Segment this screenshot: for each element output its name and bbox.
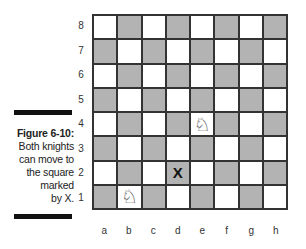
square-f3 [214,136,238,160]
square-g6 [239,64,263,88]
square-f4 [214,112,238,136]
file-label: e [190,225,214,236]
square-b2 [117,161,141,185]
square-d7 [166,39,190,63]
knight-icon: ♘ [194,115,211,134]
square-a2 [93,161,117,185]
square-h5 [263,88,287,112]
square-a8 [93,15,117,39]
rank-label: 2 [76,167,86,178]
square-e1 [190,185,214,209]
square-g7 [239,39,263,63]
square-b6 [117,64,141,88]
square-g1 [239,185,263,209]
file-label: c [141,225,165,236]
rank-label: 3 [76,143,86,154]
caption-line: marked [4,179,74,192]
square-c3 [142,136,166,160]
chessboard: ♘X♘ [92,14,288,210]
square-a3 [93,136,117,160]
figure-caption: Figure 6-10: Both knights can move to th… [4,127,74,205]
square-g3 [239,136,263,160]
rank-label: 7 [76,45,86,56]
square-h8 [263,15,287,39]
square-d5 [166,88,190,112]
square-h2 [263,161,287,185]
square-c5 [142,88,166,112]
square-d6 [166,64,190,88]
square-c1 [142,185,166,209]
square-a4 [93,112,117,136]
file-label: f [215,225,239,236]
square-g8 [239,15,263,39]
square-d1 [166,185,190,209]
square-f8 [214,15,238,39]
square-e2 [190,161,214,185]
square-f2 [214,161,238,185]
square-a7 [93,39,117,63]
square-b8 [117,15,141,39]
square-d3 [166,136,190,160]
square-d2: X [166,161,190,185]
rank-label: 1 [76,192,86,203]
square-c8 [142,15,166,39]
caption-line: Both knights [4,140,74,153]
square-f6 [214,64,238,88]
square-h6 [263,64,287,88]
square-c7 [142,39,166,63]
square-b3 [117,136,141,160]
square-g5 [239,88,263,112]
figure-label: Figure 6-10: [4,127,74,140]
target-marker: X [173,164,183,181]
square-a5 [93,88,117,112]
square-f5 [214,88,238,112]
square-e5 [190,88,214,112]
square-h3 [263,136,287,160]
square-h7 [263,39,287,63]
square-f7 [214,39,238,63]
rank-label: 6 [76,69,86,80]
caption-rule-bottom [14,214,72,219]
rank-label: 8 [76,20,86,31]
square-e3 [190,136,214,160]
file-label: a [92,225,116,236]
square-a1 [93,185,117,209]
rank-label: 4 [76,118,86,129]
square-e8 [190,15,214,39]
square-f1 [214,185,238,209]
square-e4: ♘ [190,112,214,136]
square-g2 [239,161,263,185]
file-label: d [166,225,190,236]
caption-line: the square [4,166,74,179]
caption-line: can move to [4,153,74,166]
square-h4 [263,112,287,136]
rank-label: 5 [76,94,86,105]
file-label: g [239,225,263,236]
square-e7 [190,39,214,63]
file-label: h [264,225,288,236]
caption-rule-top [14,110,72,115]
square-d8 [166,15,190,39]
square-d4 [166,112,190,136]
square-e6 [190,64,214,88]
knight-icon: ♘ [121,187,138,206]
square-b4 [117,112,141,136]
square-c4 [142,112,166,136]
file-label: b [117,225,141,236]
square-a6 [93,64,117,88]
square-b1: ♘ [117,185,141,209]
square-h1 [263,185,287,209]
square-g4 [239,112,263,136]
square-b7 [117,39,141,63]
square-c2 [142,161,166,185]
square-c6 [142,64,166,88]
square-b5 [117,88,141,112]
caption-line: by X. [4,192,74,205]
